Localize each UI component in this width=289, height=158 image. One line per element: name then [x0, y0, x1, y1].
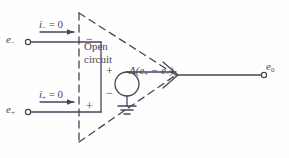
- label-dependent-source-expression: A(e+ − e−): [129, 65, 173, 78]
- label-input-plus: e+: [6, 104, 15, 117]
- output-lead: [176, 72, 267, 77]
- label-input-minus: e−: [6, 34, 15, 47]
- sign-minus-input: −: [86, 33, 93, 45]
- label-current-inverting: i− = 0: [39, 19, 63, 32]
- sign-minus-source: −: [106, 87, 113, 99]
- opamp-diagram-canvas: e− e+ i− = 0 i+ = 0 Open circuit A(e+ − …: [0, 0, 289, 158]
- sign-plus-source: +: [106, 65, 113, 77]
- label-current-noninverting: i+ = 0: [39, 89, 63, 102]
- label-output: e0: [266, 61, 274, 74]
- sign-plus-input: +: [86, 100, 93, 112]
